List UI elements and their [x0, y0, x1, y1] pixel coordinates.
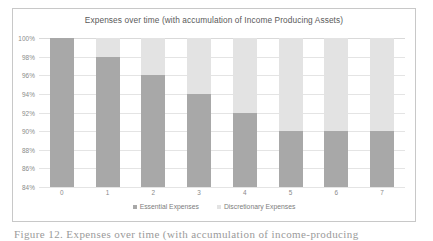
y-axis-tick-label: 92%	[22, 109, 35, 116]
bar-slot	[39, 38, 85, 187]
bar-segment-essential[interactable]	[279, 131, 303, 187]
plot-area: 100%98%96%94%92%90%88%86%84%	[39, 38, 405, 187]
legend-swatch-icon	[217, 205, 221, 209]
bar-slot	[85, 38, 131, 187]
bar-slot	[131, 38, 177, 187]
x-axis-tick-label: 2	[131, 189, 177, 196]
x-axis-tick-label: 6	[314, 189, 360, 196]
y-axis-tick-label: 98%	[22, 53, 35, 60]
bar-stack[interactable]	[141, 38, 165, 187]
bar-segment-essential[interactable]	[141, 75, 165, 187]
y-axis-tick-label: 100%	[18, 35, 35, 42]
y-axis-tick-label: 96%	[22, 72, 35, 79]
x-axis-tick-label: 3	[176, 189, 222, 196]
chart-title: Expenses over time (with accumulation of…	[13, 15, 415, 25]
bar-stack[interactable]	[187, 38, 211, 187]
bar-slot	[222, 38, 268, 187]
y-axis-tick-label: 90%	[22, 128, 35, 135]
bar-segment-essential[interactable]	[324, 131, 348, 187]
y-axis-tick-label: 86%	[22, 165, 35, 172]
bar-segment-discretionary[interactable]	[324, 38, 348, 131]
x-axis-tick-label: 1	[85, 189, 131, 196]
bar-stack[interactable]	[324, 38, 348, 187]
bar-group	[39, 38, 405, 187]
legend-item[interactable]: Essential Expenses	[133, 203, 199, 210]
legend-swatch-icon	[133, 205, 137, 209]
bar-stack[interactable]	[279, 38, 303, 187]
bar-segment-essential[interactable]	[370, 131, 394, 187]
bar-slot	[359, 38, 405, 187]
y-axis-tick-label: 88%	[22, 146, 35, 153]
x-axis-tick-label: 4	[222, 189, 268, 196]
bar-stack[interactable]	[233, 38, 257, 187]
y-axis-tick-label: 94%	[22, 90, 35, 97]
legend-label: Discretionary Expenses	[224, 203, 295, 210]
bar-stack[interactable]	[96, 38, 120, 187]
bar-segment-discretionary[interactable]	[370, 38, 394, 131]
x-axis-tick-label: 0	[39, 189, 85, 196]
bar-segment-discretionary[interactable]	[96, 38, 120, 57]
bar-segment-essential[interactable]	[50, 38, 74, 187]
bar-segment-essential[interactable]	[96, 57, 120, 187]
bar-segment-discretionary[interactable]	[141, 38, 165, 75]
bar-stack[interactable]	[50, 38, 74, 187]
bar-slot	[314, 38, 360, 187]
x-axis-tick-label: 7	[359, 189, 405, 196]
bar-segment-discretionary[interactable]	[187, 38, 211, 94]
gridline	[39, 187, 405, 188]
x-axis-tick-labels: 01234567	[39, 189, 405, 196]
bar-segment-essential[interactable]	[187, 94, 211, 187]
legend-label: Essential Expenses	[140, 203, 199, 210]
bar-segment-discretionary[interactable]	[279, 38, 303, 131]
bar-stack[interactable]	[370, 38, 394, 187]
legend-item[interactable]: Discretionary Expenses	[217, 203, 295, 210]
bar-segment-essential[interactable]	[233, 113, 257, 188]
x-axis-tick-label: 5	[268, 189, 314, 196]
bar-slot	[176, 38, 222, 187]
chart-frame: Expenses over time (with accumulation of…	[12, 8, 416, 222]
y-axis-tick-label: 84%	[22, 184, 35, 191]
chart-legend: Essential ExpensesDiscretionary Expenses	[13, 203, 415, 210]
bar-segment-discretionary[interactable]	[233, 38, 257, 113]
bar-slot	[268, 38, 314, 187]
figure-caption: Figure 12. Expenses over time (with accu…	[14, 228, 419, 241]
